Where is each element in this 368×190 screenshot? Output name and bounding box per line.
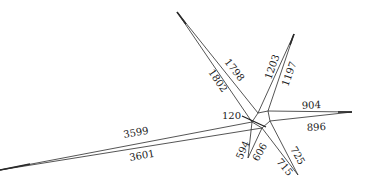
wedge-diagram: 1798 1802 1203 1197 904 896 3599 3601 59… bbox=[0, 0, 368, 190]
label-right-a: 904 bbox=[302, 99, 322, 111]
label-upper-left-a: 1798 bbox=[222, 56, 246, 83]
label-lower-left-a: 3599 bbox=[122, 125, 149, 140]
spoke-right bbox=[268, 111, 352, 121]
label-upper-right-b: 1197 bbox=[280, 60, 299, 88]
label-lower-right-b: 715 bbox=[274, 156, 295, 178]
center-node bbox=[252, 111, 270, 128]
label-right-b: 896 bbox=[307, 121, 327, 133]
label-lower-right-a: 725 bbox=[288, 145, 307, 167]
spoke-upper-left bbox=[177, 12, 258, 122]
label-center: 120 bbox=[222, 110, 241, 121]
label-lower-b: 606 bbox=[250, 141, 269, 163]
label-upper-left-b: 1802 bbox=[206, 67, 229, 94]
label-lower-left-b: 3601 bbox=[128, 148, 155, 163]
